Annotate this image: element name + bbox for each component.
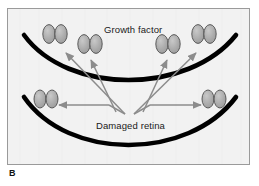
cell-oval <box>214 90 226 108</box>
figure-panel-b: Growth factor Damaged retina B <box>0 0 259 186</box>
cell-oval <box>46 90 58 108</box>
cell-oval <box>78 35 90 54</box>
cell-oval <box>192 25 204 44</box>
cell-oval <box>156 35 168 54</box>
panel-letter-label: B <box>9 169 16 178</box>
damaged-retina-label: Damaged retina <box>96 120 165 131</box>
cell-oval <box>34 90 46 108</box>
growth-factor-label: Growth factor <box>104 24 162 35</box>
cell-oval <box>202 90 214 108</box>
cell-oval <box>90 35 102 54</box>
cell-oval <box>168 35 180 54</box>
cell-oval <box>55 25 67 44</box>
panel-frame: Growth factor Damaged retina <box>7 8 250 165</box>
cell-oval <box>43 25 55 44</box>
cell-oval <box>204 25 216 44</box>
